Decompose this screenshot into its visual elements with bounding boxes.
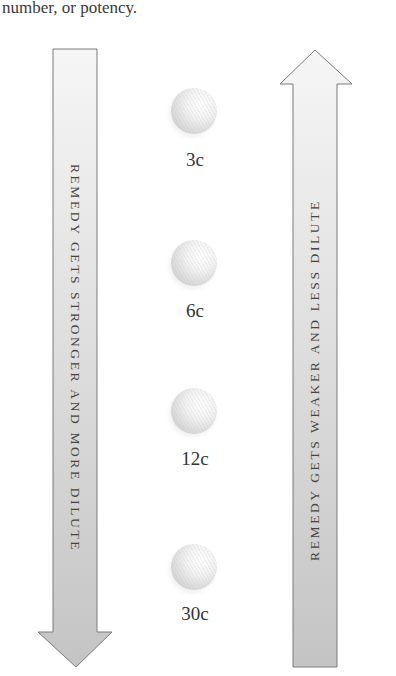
pill-icon [171, 88, 217, 134]
potency-label: 30c [155, 603, 235, 625]
potency-label: 6c [155, 300, 235, 322]
pill-icon [171, 240, 217, 286]
down-arrow-label: REMEDY GETS STRONGER AND MORE DILUTE [67, 164, 83, 552]
potency-label: 3c [155, 149, 235, 171]
up-arrow-label: REMEDY GETS WEAKER AND LESS DILUTE [307, 199, 323, 561]
potency-label: 12c [155, 448, 235, 470]
pill-icon [171, 544, 217, 590]
pill-icon [171, 388, 217, 434]
